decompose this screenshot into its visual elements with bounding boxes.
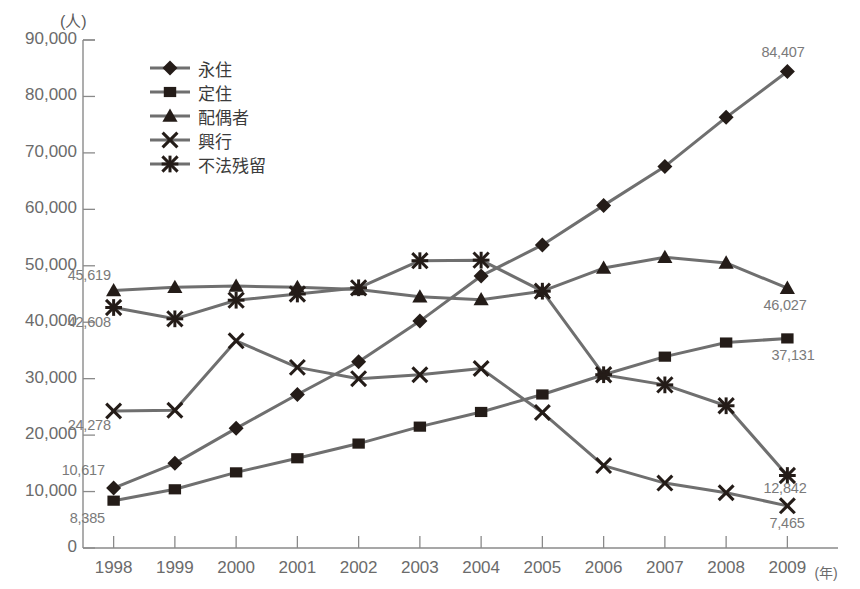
legend-item-1[interactable]: 永住: [148, 56, 266, 80]
marker-diamond: [596, 198, 611, 213]
x-axis-unit-label: (年): [814, 562, 837, 582]
series-line: [114, 257, 788, 299]
legend-marker-diamond-icon: [148, 57, 192, 79]
legend-marker-x-icon: [148, 129, 192, 151]
marker-square: [475, 407, 487, 417]
legend-label: 配偶者: [198, 104, 249, 129]
marker-square: [414, 422, 426, 432]
data-value-label: 42,608: [68, 314, 111, 330]
legend-item-4[interactable]: 興行: [148, 128, 266, 152]
marker-square: [536, 389, 548, 399]
legend-label: 定住: [198, 80, 232, 105]
x-tick-label: 2004: [451, 558, 511, 578]
marker-square: [352, 438, 364, 448]
data-value-label: 10,617: [62, 462, 105, 478]
marker-square: [659, 352, 671, 362]
legend-marker-triangle-icon: [148, 105, 192, 127]
marker-diamond: [535, 237, 550, 252]
x-tick-label: 1999: [145, 558, 205, 578]
legend-marker-square-icon: [148, 81, 192, 103]
series-line: [114, 260, 788, 475]
x-tick-label: 2008: [696, 558, 756, 578]
x-tick-label: 1998: [84, 558, 144, 578]
y-tick-label: 10,000: [25, 481, 77, 501]
y-tick-label: 30,000: [25, 368, 77, 388]
legend-item-2[interactable]: 定住: [148, 80, 266, 104]
x-tick-label: 2000: [206, 558, 266, 578]
y-tick-label: 90,000: [25, 29, 77, 49]
y-tick-label: 70,000: [25, 142, 77, 162]
data-value-label: 45,619: [68, 267, 111, 283]
y-tick-label: 60,000: [25, 198, 77, 218]
y-tick-label: 80,000: [25, 85, 77, 105]
series-4: [106, 333, 795, 513]
marker-diamond: [290, 387, 305, 402]
legend-marker-asterisk-icon: [148, 153, 192, 175]
data-value-label: 7,465: [769, 515, 804, 531]
x-tick-label: 2003: [390, 558, 450, 578]
marker-square: [781, 333, 793, 343]
x-tick-label: 2006: [574, 558, 634, 578]
data-value-label: 37,131: [771, 347, 814, 363]
x-tick-label: 2009: [757, 558, 817, 578]
marker-square: [230, 467, 242, 477]
marker-square: [164, 87, 176, 97]
legend-label: 不法残留: [198, 152, 266, 177]
series-line: [114, 341, 788, 506]
data-value-label: 12,842: [763, 480, 806, 496]
series-2: [107, 333, 793, 505]
x-tick-label: 2005: [512, 558, 572, 578]
legend-label: 興行: [198, 128, 232, 153]
line-chart-plot: [0, 0, 860, 589]
chart-legend: 永住定住配偶者興行不法残留: [148, 56, 266, 176]
y-tick-label: 0: [68, 537, 77, 557]
chart-root: (人) 010,00020,00030,00040,00050,00060,00…: [0, 0, 860, 589]
data-value-label: 46,027: [763, 297, 806, 313]
legend-item-5[interactable]: 不法残留: [148, 152, 266, 176]
x-tick-label: 2001: [267, 558, 327, 578]
x-tick-label: 2002: [329, 558, 389, 578]
data-value-label: 24,278: [68, 417, 111, 433]
data-value-label: 8,385: [70, 510, 105, 526]
series-3: [106, 250, 795, 306]
marker-square: [107, 496, 119, 506]
marker-diamond: [163, 61, 178, 76]
marker-square: [291, 453, 303, 463]
marker-square: [720, 337, 732, 347]
data-value-label: 84,407: [761, 44, 804, 60]
marker-diamond: [229, 421, 244, 436]
marker-square: [169, 484, 181, 494]
legend-item-3[interactable]: 配偶者: [148, 104, 266, 128]
x-tick-label: 2007: [635, 558, 695, 578]
legend-label: 永住: [198, 56, 232, 81]
series-line: [114, 338, 788, 500]
marker-diamond: [106, 481, 121, 496]
marker-diamond: [167, 456, 182, 471]
